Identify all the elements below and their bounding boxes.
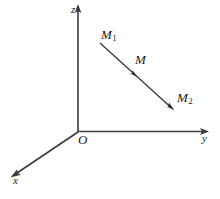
z-axis	[75, 4, 82, 132]
coordinate-axes-figure: z y x O M1 M M2	[0, 0, 220, 199]
z-axis-label: z	[71, 4, 75, 15]
x-axis-line	[17, 132, 78, 173]
point-label-m1-base: M	[101, 27, 112, 42]
point-label-m2: M2	[177, 91, 193, 106]
point-label-m2-base: M	[177, 90, 188, 105]
point-label-m1-subscript: 1	[112, 33, 117, 43]
vector-end-arrowhead	[164, 103, 175, 111]
point-label-m1: M1	[101, 28, 117, 43]
x-axis	[11, 132, 79, 177]
y-axis	[78, 128, 209, 135]
point-label-m2-subscript: 2	[188, 96, 193, 106]
origin-label: O	[78, 133, 87, 146]
point-label-m: M	[135, 53, 146, 66]
vector-mid-arrowhead	[128, 70, 138, 77]
y-axis-label: y	[202, 133, 207, 144]
x-axis-label: x	[13, 175, 18, 186]
